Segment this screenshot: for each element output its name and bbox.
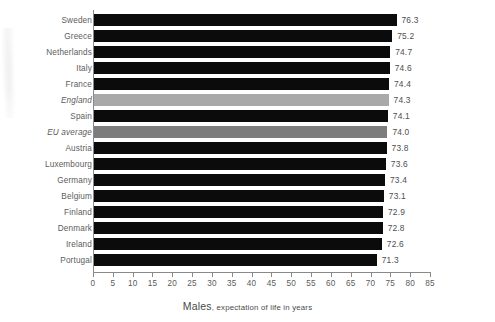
bar-category-label: France (6, 78, 92, 92)
bar-track: 73.4 (94, 174, 495, 186)
bar-value-label: 72.9 (388, 206, 405, 218)
bar-category-label: Austria (6, 142, 92, 156)
x-axis-tick (93, 272, 94, 277)
bar-value-label: 74.1 (393, 110, 410, 122)
x-axis-tick (430, 272, 431, 277)
x-axis-title-strong: Males (183, 300, 212, 312)
bar (94, 46, 390, 58)
bar (94, 238, 382, 250)
bar-track: 71.3 (94, 254, 495, 266)
bar-track: 74.3 (94, 94, 495, 106)
x-axis-tick (252, 272, 253, 277)
x-axis-tick (311, 272, 312, 277)
bar-value-label: 73.4 (390, 174, 407, 186)
bar-value-label: 75.2 (397, 30, 414, 42)
bar-track: 76.3 (94, 14, 495, 26)
bar-track: 73.8 (94, 142, 495, 154)
bar-row: Italy74.6 (0, 61, 495, 77)
x-axis-tick (133, 272, 134, 277)
bar-row: England74.3 (0, 93, 495, 109)
x-axis-title: Males, expectation of life in years (0, 296, 495, 314)
bar-track: 74.6 (94, 62, 495, 74)
bar-track: 74.7 (94, 46, 495, 58)
bar-category-label: Portugal (6, 254, 92, 268)
bar (94, 190, 384, 202)
bar (94, 206, 383, 218)
bar-track: 75.2 (94, 30, 495, 42)
bar-track: 72.9 (94, 206, 495, 218)
bar-track: 72.8 (94, 222, 495, 234)
bar-category-label: Greece (6, 30, 92, 44)
bar-row: Luxembourg73.6 (0, 157, 495, 173)
bar-row: Greece75.2 (0, 29, 495, 45)
bar (94, 78, 389, 90)
bar-row: Germany73.4 (0, 173, 495, 189)
bar (94, 126, 387, 138)
bar-category-label: Spain (6, 110, 92, 124)
bar (94, 110, 388, 122)
bar-row: Sweden76.3 (0, 13, 495, 29)
bar (94, 142, 387, 154)
bar (94, 14, 397, 26)
bar-category-label: England (6, 94, 92, 108)
x-axis-line (93, 272, 431, 273)
bar-row: France74.4 (0, 77, 495, 93)
bar-value-label: 72.8 (388, 222, 405, 234)
bar-value-label: 74.4 (394, 78, 411, 90)
bar-row: Spain74.1 (0, 109, 495, 125)
x-axis-tick (291, 272, 292, 277)
x-axis-tick (351, 272, 352, 277)
bar-value-label: 72.6 (387, 238, 404, 250)
bar-track: 73.6 (94, 158, 495, 170)
bar-value-label: 74.3 (394, 94, 411, 106)
bar-category-label: Italy (6, 62, 92, 76)
bar-row: Netherlands74.7 (0, 45, 495, 61)
x-axis-tick (371, 272, 372, 277)
bar-track: 74.1 (94, 110, 495, 122)
bar (94, 254, 377, 266)
bar-row: Portugal71.3 (0, 253, 495, 269)
bar (94, 94, 389, 106)
x-axis-title-rest: , expectation of life in years (212, 303, 312, 312)
bar (94, 62, 390, 74)
bar-category-label: Finland (6, 206, 92, 220)
x-axis-tick (212, 272, 213, 277)
bar-category-label: Germany (6, 174, 92, 188)
bar-track: 74.0 (94, 126, 495, 138)
bar (94, 174, 385, 186)
x-axis-tick (410, 272, 411, 277)
bar-value-label: 74.7 (395, 46, 412, 58)
bar-category-label: Denmark (6, 222, 92, 236)
bar-category-label: Belgium (6, 190, 92, 204)
bar-category-label: Ireland (6, 238, 92, 252)
x-axis-tick (113, 272, 114, 277)
x-axis-tick (331, 272, 332, 277)
bar-rows: Sweden76.3Greece75.2Netherlands74.7Italy… (0, 13, 495, 269)
life-expectancy-bar-chart: Sweden76.3Greece75.2Netherlands74.7Italy… (0, 0, 495, 322)
bar-row: Austria73.8 (0, 141, 495, 157)
x-axis-tick (271, 272, 272, 277)
bar-track: 73.1 (94, 190, 495, 202)
bar (94, 30, 392, 42)
plot-area: Sweden76.3Greece75.2Netherlands74.7Italy… (0, 0, 495, 322)
bar-value-label: 71.3 (382, 254, 399, 266)
bar-value-label: 73.8 (392, 142, 409, 154)
bar-category-label: Netherlands (6, 46, 92, 60)
x-axis-tick (192, 272, 193, 277)
x-axis-tick (232, 272, 233, 277)
bar-category-label: Luxembourg (6, 158, 92, 172)
x-axis-tick (390, 272, 391, 277)
bar-category-label: EU average (6, 126, 92, 140)
x-axis-tick-label: 85 (418, 279, 442, 288)
bar-track: 72.6 (94, 238, 495, 250)
bar-row: Denmark72.8 (0, 221, 495, 237)
bar-row: Belgium73.1 (0, 189, 495, 205)
bar-row: Finland72.9 (0, 205, 495, 221)
x-axis-tick (172, 272, 173, 277)
bar (94, 158, 386, 170)
bar (94, 222, 383, 234)
bar-track: 74.4 (94, 78, 495, 90)
bar-value-label: 74.0 (392, 126, 409, 138)
bar-row: EU average74.0 (0, 125, 495, 141)
bar-value-label: 74.6 (395, 62, 412, 74)
